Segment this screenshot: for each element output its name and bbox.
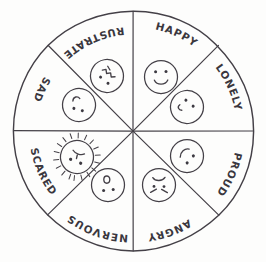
scared-nose [76,155,78,159]
sad-eye-left [80,109,84,113]
frustrated-eye-right [99,75,103,79]
angry-mouth-frown [153,177,165,180]
frustrated-mouth-tail [107,66,111,70]
happy-eye-left [154,70,157,73]
sad-face [57,83,101,127]
proud-face [164,133,211,180]
segment-label-happy: HAPPY [154,20,200,49]
angry-eye-left [163,185,166,188]
segment-label-sad: SAD [32,75,54,104]
segment-label-scared: SCARED [28,147,59,198]
nervous-eye-right [102,189,105,192]
proud-mouth [178,147,189,158]
emotion-wheel-diagram: HAPPY LONELY PROUD ANGRY NERVOUS SCARED … [0,0,266,262]
angry-brow-right [151,189,157,192]
sad-face-outline [57,83,101,127]
segment-label-angry: ANGRY [146,218,193,245]
happy-face-outline [145,61,178,94]
frustrated-face [84,53,130,99]
angry-face [143,169,176,202]
angry-brow-left [162,189,168,192]
nervous-face [92,169,125,202]
nervous-mouth-open [104,176,110,183]
wheel-spokes [14,11,254,250]
frustrated-mouth-wavy [102,68,115,79]
scared-eye-left [79,161,83,165]
happy-eye-right [165,70,168,73]
sad-eye-right [72,106,76,110]
sad-mouth-frown [72,96,80,104]
scared-face [47,127,107,187]
emotion-wheel-canvas: HAPPY LONELY PROUD ANGRY NERVOUS SCARED … [0,0,266,262]
frustrated-face-outline [84,53,130,99]
segment-label-nervous: NERVOUS [64,212,128,244]
segment-label-lonely: LONELY [214,61,245,112]
angry-eye-right [153,185,156,188]
scared-mouth [72,150,84,156]
nervous-eye-left [112,188,115,191]
proud-eye-right [185,161,189,165]
angry-face-outline [143,169,176,202]
scared-eye-right [69,157,73,161]
lonely-eye-right [191,104,195,108]
lonely-eye-left [184,98,188,102]
happy-mouth-smile [154,80,167,84]
frustrated-eye-left [106,81,110,85]
nervous-face-outline [92,169,125,202]
proud-eye-left [191,154,195,158]
segment-label-frustrated: FRUSTRATED [0,0,125,62]
segment-label-proud: PROUD [214,151,244,199]
proud-face-outline [164,133,211,180]
happy-face [145,61,178,94]
lonely-mouth [177,105,184,111]
